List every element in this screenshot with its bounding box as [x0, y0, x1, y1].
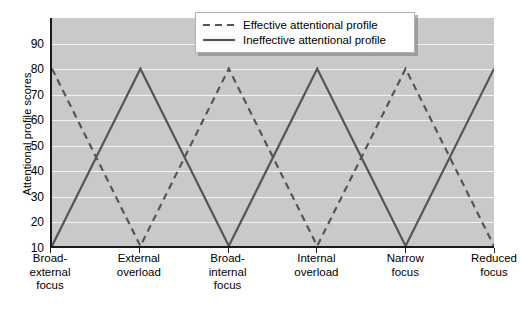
x-axis-tick-labels: Broad-externalfocusExternaloverloadBroad… — [50, 252, 494, 304]
figure-caption — [6, 306, 486, 312]
legend-entry-effective: Effective attentional profile — [202, 17, 408, 32]
y-tick-70: 70 — [18, 89, 44, 101]
x-label-4: Narrowfocus — [360, 252, 450, 279]
legend-label-effective: Effective attentional profile — [243, 19, 378, 31]
series-line-ineffective — [52, 69, 494, 246]
chart-legend: Effective attentional profile Ineffectiv… — [195, 12, 415, 53]
y-tick-30: 30 — [18, 191, 44, 203]
y-tick-50: 50 — [18, 140, 44, 152]
y-tick-90: 90 — [18, 38, 44, 50]
y-tick-20: 20 — [18, 216, 44, 228]
y-tick-60: 60 — [18, 114, 44, 126]
legend-label-ineffective: Ineffective attentional profile — [243, 34, 386, 46]
dashed-line-icon — [202, 19, 236, 31]
legend-entry-ineffective: Ineffective attentional profile — [202, 32, 408, 47]
y-tick-40: 40 — [18, 165, 44, 177]
solid-line-icon — [202, 34, 236, 46]
y-tick-80: 80 — [18, 63, 44, 75]
x-label-0: Broad-externalfocus — [5, 252, 95, 293]
x-label-2: Broad-internalfocus — [183, 252, 273, 293]
x-label-5: Reducedfocus — [449, 252, 521, 279]
x-label-1: Externaloverload — [94, 252, 184, 279]
x-label-3: Internaloverload — [271, 252, 361, 279]
